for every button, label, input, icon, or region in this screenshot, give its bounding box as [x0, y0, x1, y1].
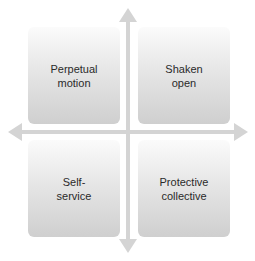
- quadrant-label: Shaken open: [159, 62, 209, 90]
- arrow-down-icon: [119, 239, 137, 253]
- arrow-left-icon: [8, 123, 22, 141]
- arrow-right-icon: [234, 123, 248, 141]
- quadrant-bottom-left: Self-service: [28, 140, 120, 237]
- quadrant-bottom-right: Protective collective: [138, 140, 230, 237]
- quadrant-label: Perpetual motion: [39, 62, 109, 90]
- quadrant-top-left: Perpetual motion: [28, 27, 120, 124]
- quadrant-label: Protective collective: [149, 175, 219, 203]
- arrow-up-icon: [119, 8, 137, 22]
- quadrant-top-right: Shaken open: [138, 27, 230, 124]
- quadrant-label: Self-service: [52, 175, 96, 203]
